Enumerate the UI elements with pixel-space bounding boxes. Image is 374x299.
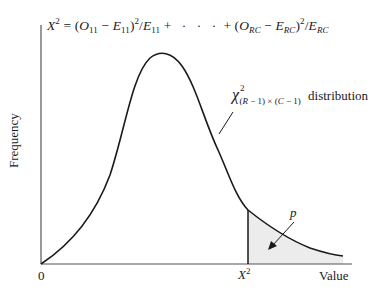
chi-sup: 2 [240,83,245,93]
formula-e2-sub: RC [284,25,296,35]
chi-symbol: χ [232,86,239,103]
formula-dots: + · · · + ( [160,18,239,33]
formula-minus2: − [261,18,276,33]
distribution-text: distribution [305,88,368,103]
formula-e2b-sub: RC [317,25,329,35]
formula-eq: = ( [60,18,79,33]
distribution-pointer [219,112,233,134]
x-tick-stat: X [238,267,246,282]
formula-o1: O [79,18,89,33]
df-close: − 1) [284,96,301,106]
formula-e2: E [275,18,283,33]
formula-o2-sub: RC [249,25,261,35]
x-tick-zero: 0 [38,268,45,284]
formula-e2b: E [309,18,317,33]
chi-df-subscript: (R − 1) × (C − 1) [240,96,301,106]
formula-e1b-sub: 11 [151,25,160,35]
p-value-label: p [290,205,297,221]
x-tick-stat-sup: 2 [246,266,251,276]
formula-e1: E [113,18,121,33]
formula-o2: O [239,18,249,33]
x-tick-test-statistic: X2 [238,267,250,283]
df-mid: − 1) × ( [248,96,278,106]
formula-minus1: − [98,18,113,33]
chi-square-formula: X2 = (O11 − E11)2/E11 + · · · + (ORC − E… [47,18,329,34]
distribution-label: χ2(R − 1) × (C − 1) distribution [232,86,368,104]
y-axis-label: Frequency [6,113,22,168]
chi-square-curve [41,53,343,264]
formula-o1-sub: 11 [89,25,98,35]
chi-square-diagram [0,0,374,299]
x-axis-label: Value [319,268,349,284]
formula-e1-sub: 11 [121,25,130,35]
